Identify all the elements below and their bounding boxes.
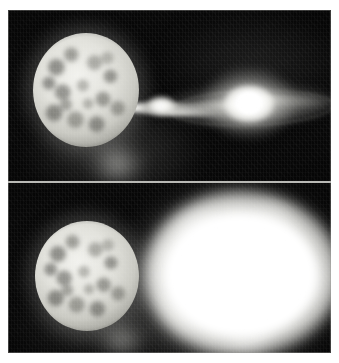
panel-top [8,10,331,181]
background-nebulosity-right [158,10,331,100]
nova-shell-texture [138,187,331,353]
donor-star-bottom [35,221,139,331]
donor-star-mottling [33,33,139,147]
donor-star-mottling [35,221,139,331]
accretion-disk-arm-right [252,94,331,108]
panel-bottom [8,183,331,353]
panel-stack [8,10,331,353]
donor-star-top [33,33,139,147]
figure-root [0,0,339,363]
